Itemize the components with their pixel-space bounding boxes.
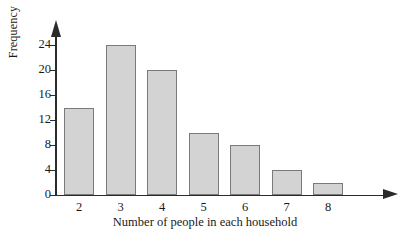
bar: [64, 108, 94, 196]
y-tick-label: 8: [45, 137, 51, 151]
x-tick-label: 2: [64, 200, 94, 214]
y-tick-label: 24: [39, 37, 52, 51]
x-tick-label: 7: [272, 200, 302, 214]
x-axis-title: Number of people in each household: [0, 215, 410, 230]
y-tick-label: 16: [39, 87, 52, 101]
bar: [230, 145, 260, 195]
y-tick-label: 20: [39, 62, 52, 76]
bar-chart: Frequency 04812162024 2345678 Number of …: [0, 0, 410, 242]
x-tick-label: 6: [230, 200, 260, 214]
y-axis-title: Frequency: [6, 0, 22, 87]
y-tick-label: 0: [45, 187, 51, 201]
bar: [106, 45, 136, 195]
y-axis-arrow-icon: [51, 20, 61, 37]
x-tick-label: 8: [313, 200, 343, 214]
x-tick-label: 4: [147, 200, 177, 214]
bar: [272, 170, 302, 195]
y-tick-label: 4: [45, 162, 51, 176]
y-tick-label: 12: [39, 112, 52, 126]
y-axis-line: [55, 36, 57, 195]
x-tick-label: 3: [106, 200, 136, 214]
x-tick-label: 5: [189, 200, 219, 214]
plot-area: 04812162024 2345678: [55, 20, 395, 200]
bar: [147, 70, 177, 195]
bar: [313, 183, 343, 196]
x-axis-arrow-icon: [383, 189, 398, 199]
bar: [189, 133, 219, 196]
